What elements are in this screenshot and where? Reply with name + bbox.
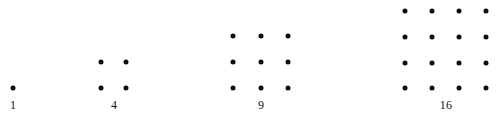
- square-numbers-figure: 14916: [0, 0, 496, 118]
- dot: [403, 61, 408, 66]
- dot: [457, 86, 462, 91]
- dot: [457, 9, 462, 14]
- dot: [484, 86, 489, 91]
- dot: [457, 35, 462, 40]
- dot: [403, 9, 408, 14]
- dot: [484, 9, 489, 14]
- dot: [430, 61, 435, 66]
- group-label-16: 16: [440, 99, 452, 111]
- dot: [430, 35, 435, 40]
- dot: [403, 86, 408, 91]
- dot: [430, 86, 435, 91]
- dot: [430, 9, 435, 14]
- dot-array-group-16: 16: [0, 0, 496, 118]
- dot: [484, 35, 489, 40]
- dot: [457, 61, 462, 66]
- dot: [484, 61, 489, 66]
- dot: [403, 35, 408, 40]
